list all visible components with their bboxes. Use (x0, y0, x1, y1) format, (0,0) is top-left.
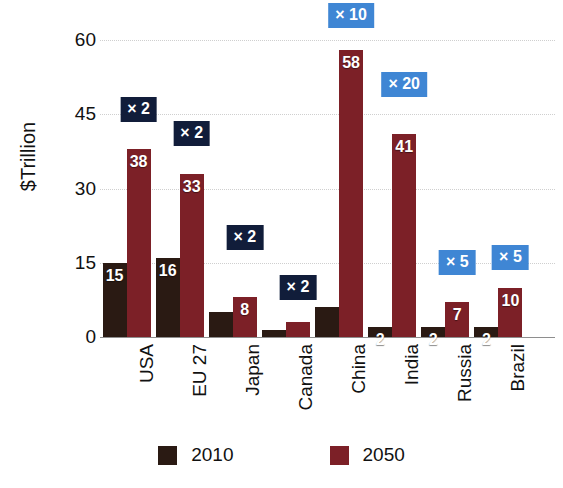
bar-value-label: 8 (233, 302, 257, 318)
bar-2050: 33 (180, 174, 204, 337)
multiplier-badge: × 10 (328, 3, 374, 28)
bar-value-label: 58 (339, 55, 363, 71)
bar-value-label: 7 (445, 307, 469, 323)
x-axis-label-china: China (348, 344, 370, 394)
bar-group: 58 (315, 40, 363, 337)
bar-value-label: 2 (421, 332, 445, 348)
y-tick-label: 45 (56, 103, 96, 125)
bar-group: 1538 (103, 40, 151, 337)
plot-area: 1538163385824127210× 2× 2× 2× 2× 10× 20×… (100, 40, 525, 337)
x-axis-label-russia: Russia (454, 344, 476, 402)
bar-value-label: 2 (474, 332, 498, 348)
bar-2050 (286, 322, 310, 337)
legend-swatch (158, 446, 177, 465)
x-axis-label-canada: Canada (295, 344, 317, 411)
multiplier-badge: × 2 (280, 275, 317, 300)
bar-group: 27 (421, 40, 469, 337)
x-axis-label-india: India (401, 344, 423, 385)
y-axis-title: $Trillion (17, 77, 40, 237)
x-axis-label-eu-27: EU 27 (189, 344, 211, 397)
bar-chart: $Trillion 015304560 1538163385824127210×… (0, 0, 563, 488)
multiplier-badge: × 2 (120, 97, 157, 122)
bar-value-label: 38 (127, 154, 151, 170)
bar-2010 (262, 330, 286, 337)
legend-swatch (330, 446, 349, 465)
bar-2010: 2 (368, 327, 392, 337)
bar-2010 (209, 312, 233, 337)
bar-value-label: 16 (156, 263, 180, 279)
bar-value-label: 41 (392, 139, 416, 155)
legend-label: 2050 (363, 444, 405, 466)
y-axis-ticks: 015304560 (52, 0, 96, 488)
bar-2050: 7 (445, 302, 469, 337)
legend-item-2010: 2010 (158, 444, 233, 466)
legend-item-2050: 2050 (330, 444, 405, 466)
multiplier-badge: × 5 (492, 245, 529, 270)
bar-2050: 8 (233, 297, 257, 337)
bar-value-label: 15 (103, 268, 127, 284)
bar-2010: 16 (156, 258, 180, 337)
multiplier-badge: × 5 (439, 250, 476, 275)
bar-2010 (315, 307, 339, 337)
bar-group: 1633 (156, 40, 204, 337)
y-tick-label: 30 (56, 178, 96, 200)
bar-2010: 15 (103, 263, 127, 337)
bar-2050: 41 (392, 134, 416, 337)
y-tick-label: 60 (56, 29, 96, 51)
bar-2010: 2 (421, 327, 445, 337)
bar-group: 210 (474, 40, 522, 337)
multiplier-badge: × 2 (173, 121, 210, 146)
multiplier-badge: × 2 (226, 225, 263, 250)
x-axis-label-usa: USA (136, 344, 158, 383)
bar-group: 8 (209, 40, 257, 337)
x-axis-label-japan: Japan (242, 344, 264, 396)
y-tick-label: 15 (56, 252, 96, 274)
bar-value-label: 33 (180, 179, 204, 195)
bar-2050: 10 (498, 288, 522, 338)
bar-2050: 58 (339, 50, 363, 337)
x-axis-label-brazil: Brazil (507, 344, 529, 392)
bar-2050: 38 (127, 149, 151, 337)
multiplier-badge: × 20 (381, 72, 427, 97)
legend-label: 2010 (191, 444, 233, 466)
bar-value-label: 2 (368, 332, 392, 348)
bar-2010: 2 (474, 327, 498, 337)
y-tick-label: 0 (56, 326, 96, 348)
legend: 20102050 (0, 444, 563, 466)
bar-value-label: 10 (498, 293, 522, 309)
